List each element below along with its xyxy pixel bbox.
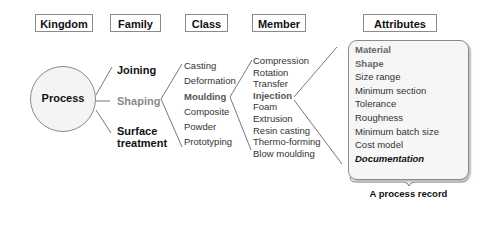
family-surface-line1: Surface	[117, 125, 167, 137]
member-item: Extrusion	[253, 113, 321, 125]
class-item: Deformation	[184, 73, 236, 88]
record-caption: A process record	[348, 188, 469, 199]
member-item: Blow moulding	[253, 148, 321, 160]
attribute-item: Minimum section	[355, 84, 439, 98]
family-surface-line2: treatment	[117, 137, 167, 149]
class-item: Composite	[184, 104, 236, 119]
member-item: Thermo-forming	[253, 136, 321, 148]
member-item: Resin casting	[253, 125, 321, 137]
class-list: Casting Deformation Moulding Composite P…	[184, 58, 236, 150]
family-joining: Joining	[117, 64, 156, 76]
family-shaping: Shaping	[117, 95, 160, 107]
attribute-item: Cost model	[355, 138, 439, 152]
member-list: Compression Rotation Transfer Injection …	[253, 55, 321, 159]
attribute-item: Material	[355, 43, 439, 57]
attribute-item: Shape	[355, 57, 439, 71]
attribute-item-documentation: Documentation	[355, 152, 439, 166]
class-item: Prototyping	[184, 134, 236, 149]
attribute-item: Minimum batch size	[355, 125, 439, 139]
class-item-highlighted: Moulding	[184, 89, 236, 104]
member-item: Rotation	[253, 67, 321, 79]
attribute-item: Tolerance	[355, 97, 439, 111]
member-item: Transfer	[253, 78, 321, 90]
member-item: Foam	[253, 101, 321, 113]
member-item-highlighted: Injection	[253, 90, 321, 102]
class-item: Casting	[184, 58, 236, 73]
member-item: Compression	[253, 55, 321, 67]
kingdom-process-label: Process	[30, 92, 96, 104]
attribute-item: Size range	[355, 70, 439, 84]
attribute-list: Material Shape Size range Minimum sectio…	[355, 43, 439, 165]
class-item: Powder	[184, 119, 236, 134]
family-surface-treatment: Surface treatment	[117, 125, 167, 149]
attribute-item: Roughness	[355, 111, 439, 125]
